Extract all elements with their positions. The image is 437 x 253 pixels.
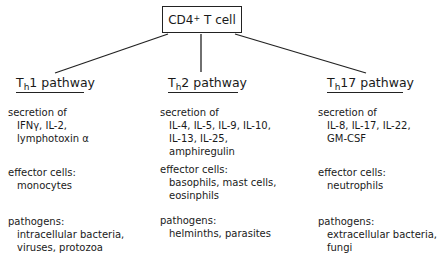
pathogens-item: fungi	[318, 241, 437, 253]
th17-pathway-heading: Th17 pathway	[327, 75, 414, 90]
connector-th1	[55, 34, 168, 73]
effector-item: monocytes	[8, 179, 76, 192]
pathogens-label: pathogens:	[8, 215, 124, 228]
th2-underline	[168, 92, 238, 93]
root-label: CD4	[168, 13, 193, 27]
th1-underline	[16, 92, 84, 93]
effector-item: neutrophils	[318, 179, 386, 192]
root-node-cd4-t-cell: CD4+ T cell	[162, 6, 242, 33]
heading-subscript: h	[176, 82, 182, 92]
heading-suffix: 17 pathway	[340, 75, 414, 90]
pathogens-item: extracellular bacteria,	[318, 228, 437, 241]
pathogens-item: helminths, parasites	[160, 227, 271, 240]
secretion-item: IFNγ, IL-2,	[8, 119, 89, 132]
th1-pathogens: pathogens: intracellular bacteria, virus…	[8, 215, 124, 253]
effector-label: effector cells:	[160, 163, 276, 176]
th17-underline	[327, 92, 403, 93]
secretion-label: secretion of	[318, 106, 411, 119]
th2-effector: effector cells: basophils, mast cells, e…	[160, 163, 276, 202]
effector-label: effector cells:	[318, 166, 386, 179]
heading-prefix: T	[327, 75, 335, 90]
root-label-superscript: +	[193, 14, 200, 23]
heading-prefix: T	[168, 75, 176, 90]
pathogens-label: pathogens:	[160, 214, 271, 227]
secretion-item: IL-13, IL-25,	[160, 132, 271, 145]
th1-pathway-heading: Th1 pathway	[16, 75, 95, 90]
pathogens-label: pathogens:	[318, 215, 437, 228]
heading-suffix: 2 pathway	[181, 75, 247, 90]
pathogens-item: viruses, protozoa	[8, 241, 124, 253]
th17-effector: effector cells: neutrophils	[318, 166, 386, 192]
secretion-label: secretion of	[8, 106, 89, 119]
th2-secretion: secretion of IL-4, IL-5, IL-9, IL-10, IL…	[160, 106, 271, 158]
th17-pathogens: pathogens: extracellular bacteria, fungi	[318, 215, 437, 253]
secretion-item: GM-CSF	[318, 132, 411, 145]
secretion-item: lymphotoxin α	[8, 132, 89, 145]
secretion-item: amphiregulin	[160, 145, 271, 158]
root-label-rest: T cell	[200, 13, 236, 27]
secretion-item: IL-4, IL-5, IL-9, IL-10,	[160, 119, 271, 132]
heading-subscript: h	[24, 82, 30, 92]
effector-label: effector cells:	[8, 166, 76, 179]
th1-secretion: secretion of IFNγ, IL-2, lymphotoxin α	[8, 106, 89, 145]
effector-item: eosinphils	[160, 189, 276, 202]
th17-secretion: secretion of IL-8, IL-17, IL-22, GM-CSF	[318, 106, 411, 145]
pathogens-item: intracellular bacteria,	[8, 228, 124, 241]
th2-pathogens: pathogens: helminths, parasites	[160, 214, 271, 240]
effector-item: basophils, mast cells,	[160, 176, 276, 189]
heading-subscript: h	[335, 82, 341, 92]
th2-pathway-heading: Th2 pathway	[168, 75, 247, 90]
heading-suffix: 1 pathway	[29, 75, 95, 90]
th1-effector: effector cells: monocytes	[8, 166, 76, 192]
secretion-item: IL-8, IL-17, IL-22,	[318, 119, 411, 132]
secretion-label: secretion of	[160, 106, 271, 119]
connector-th17	[235, 34, 366, 73]
heading-prefix: T	[16, 75, 24, 90]
